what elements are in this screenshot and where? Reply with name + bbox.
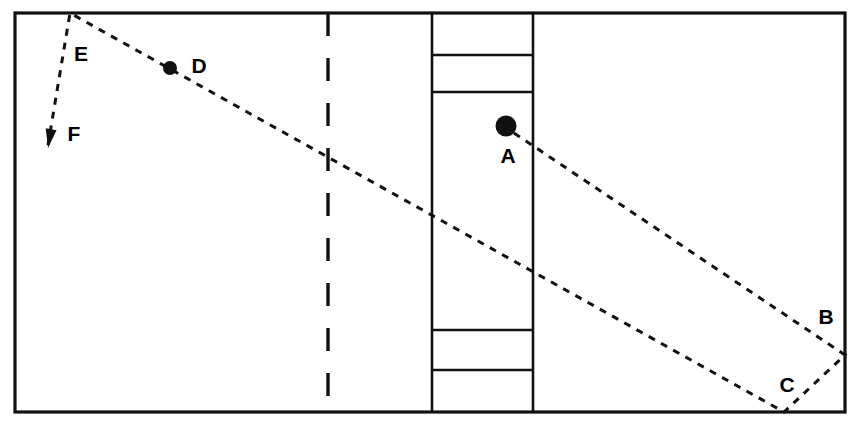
- column-dividers: [432, 55, 533, 370]
- point-label-b: B: [818, 305, 833, 328]
- point-label-d: D: [191, 54, 206, 77]
- point-label-a: A: [500, 144, 515, 167]
- billiard-diagram: ABCDEF: [0, 0, 849, 424]
- point-label-e: E: [74, 42, 88, 65]
- direction-arrowhead-f: [46, 128, 57, 148]
- balls-group: [163, 61, 517, 137]
- point-labels-group: ABCDEF: [68, 42, 834, 396]
- ball-a: [496, 116, 517, 137]
- point-label-c: C: [779, 373, 794, 396]
- point-label-f: F: [68, 122, 81, 145]
- ball-d: [163, 61, 177, 75]
- diagram-canvas: ABCDEF: [0, 0, 849, 424]
